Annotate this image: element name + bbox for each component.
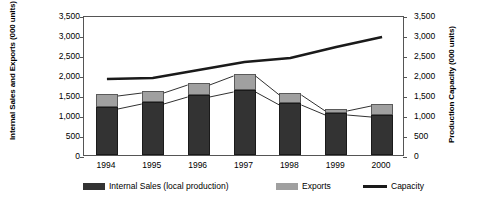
legend-item-label: Exports — [302, 181, 331, 192]
y-right-axis-tick-label: 2,000 — [414, 72, 435, 80]
y-right-axis-tickmark — [403, 37, 407, 38]
y-right-axis-tickmark — [403, 77, 407, 78]
chart-container: Internal Sales and Exports (000 units) 3… — [0, 0, 495, 201]
legend-item: Exports — [276, 181, 331, 192]
y-axis-right-tick-labels: 3,5003,0002,5002,0001,5001,0005000 — [414, 0, 450, 201]
internal-sales-connector — [164, 97, 188, 104]
plot-area — [83, 16, 404, 156]
x-axis-tick-labels: 1994199519961997199819992000 — [83, 160, 404, 174]
stack-total-connector — [347, 106, 371, 111]
y-left-axis-tick-label: 3,000 — [59, 32, 80, 40]
stack-total-connector — [301, 95, 325, 111]
y-right-axis-tick-label: 0 — [414, 152, 419, 160]
stack-total-connector — [256, 76, 280, 95]
y-right-axis-tick-label: 500 — [414, 132, 428, 140]
y-left-axis-tick-label: 3,500 — [59, 12, 80, 20]
internal-sales-swatch — [83, 183, 105, 190]
y-right-axis-tickmark — [403, 137, 407, 138]
capacity-line — [107, 37, 382, 79]
y-left-axis-tickmark — [80, 57, 84, 58]
x-axis-tick-label-1996: 1996 — [176, 160, 220, 170]
y-axis-left-tick-labels: 3,5003,0002,5002,0001,5001,0005000 — [44, 0, 80, 201]
internal-sales-connector — [118, 104, 142, 109]
x-axis-tick-label-1998: 1998 — [267, 160, 311, 170]
y-axis-left-title: Internal Sales and Exports (000 units) — [8, 30, 18, 140]
y-left-axis-tick-label: 0 — [75, 152, 80, 160]
internal-sales-connector — [256, 92, 280, 105]
y-left-axis-tick-label: 2,000 — [59, 72, 80, 80]
y-left-axis-tickmark — [80, 137, 84, 138]
y-left-axis-tick-label: 2,500 — [59, 52, 80, 60]
y-left-axis-tickmark — [80, 77, 84, 78]
x-axis-tick-label-2000: 2000 — [359, 160, 403, 170]
chart-legend: Internal Sales (local production)Exports… — [83, 181, 458, 195]
legend-item: Internal Sales (local production) — [83, 181, 229, 192]
y-right-axis-tickmark — [403, 17, 407, 18]
y-left-axis-tickmark — [80, 97, 84, 98]
y-right-axis-tickmark — [403, 157, 407, 158]
x-axis-tick-label-1994: 1994 — [84, 160, 128, 170]
x-axis-tick-label-1995: 1995 — [130, 160, 174, 170]
legend-item-label: Capacity — [391, 181, 424, 192]
capacity-line-overlay — [84, 17, 405, 157]
stack-total-connector — [210, 76, 234, 85]
exports-swatch — [276, 183, 298, 190]
y-right-axis-tickmark — [403, 57, 407, 58]
internal-sales-connector — [301, 105, 325, 115]
internal-sales-connector — [210, 92, 234, 97]
y-left-axis-tickmark — [80, 157, 84, 158]
y-left-axis-tickmark — [80, 17, 84, 18]
y-left-axis-tick-label: 1,000 — [59, 112, 80, 120]
y-left-axis-tickmark — [80, 37, 84, 38]
y-left-axis-tick-label: 1,500 — [59, 92, 80, 100]
y-left-axis-tick-label: 500 — [66, 132, 80, 140]
y-left-axis-tickmark — [80, 117, 84, 118]
y-right-axis-tick-label: 3,500 — [414, 12, 435, 20]
y-right-axis-tickmark — [403, 97, 407, 98]
legend-item-label: Internal Sales (local production) — [109, 181, 229, 192]
x-axis-tick-label-1999: 1999 — [313, 160, 357, 170]
y-right-axis-tick-label: 1,500 — [414, 92, 435, 100]
y-right-axis-tick-label: 1,000 — [414, 112, 435, 120]
y-right-axis-tickmark — [403, 117, 407, 118]
y-right-axis-tick-label: 2,500 — [414, 52, 435, 60]
stack-total-connector — [118, 93, 142, 96]
capacity-line-swatch — [363, 185, 387, 188]
y-right-axis-tick-label: 3,000 — [414, 32, 435, 40]
internal-sales-connector — [347, 115, 371, 117]
x-axis-tick-label-1997: 1997 — [222, 160, 266, 170]
stack-total-connector — [164, 85, 188, 93]
legend-item: Capacity — [363, 181, 424, 192]
